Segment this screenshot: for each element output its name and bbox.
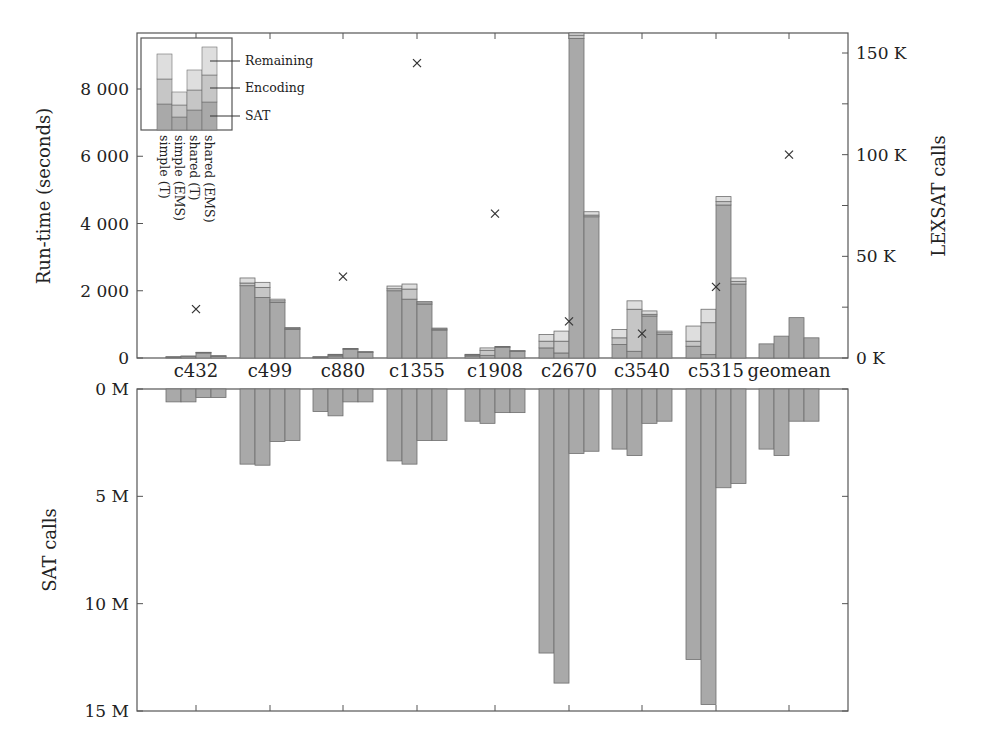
legend-config-label: shared (T): [187, 135, 202, 200]
y-tick-label: 4 000: [80, 214, 129, 234]
bar: [402, 389, 417, 464]
bar: [495, 389, 510, 413]
category-label: c3540: [614, 360, 670, 381]
bar-segment-sat: [240, 286, 255, 358]
bar: [612, 389, 627, 449]
bar-segment-remaining: [642, 311, 657, 314]
bar: [657, 389, 672, 421]
lexsat-marker: [413, 59, 421, 67]
bar: [313, 389, 328, 412]
legend-config-label: shared (EMS): [202, 135, 217, 223]
legend-bar-segment: [157, 104, 172, 130]
category-label: c880: [321, 360, 365, 381]
y-tick-label: 0: [118, 348, 129, 368]
bar-segment-sat: [432, 330, 447, 358]
bar: [285, 389, 300, 441]
y-tick-label: 10 M: [85, 594, 129, 614]
bar-segment-encoding: [480, 350, 495, 355]
legend-label: SAT: [245, 108, 271, 123]
y2-tick-label: 0 K: [856, 348, 885, 368]
legend-label: Encoding: [245, 80, 305, 95]
bar-segment-sat: [759, 344, 774, 358]
bar: [181, 389, 196, 402]
bar-segment-sat: [789, 318, 804, 358]
legend: RemainingEncodingSATsimple (T)simple (EM…: [141, 38, 313, 223]
category-label: c2670: [541, 360, 597, 381]
bar-segment-remaining: [432, 328, 447, 329]
lexsat-marker: [339, 273, 347, 281]
bar-segment-encoding: [701, 323, 716, 355]
bar: [554, 389, 569, 683]
lexsat-marker: [192, 305, 200, 313]
y-tick-label: 2 000: [80, 281, 129, 301]
bar-segment-remaining: [701, 309, 716, 322]
category-label: c1908: [467, 360, 523, 381]
category-label: c499: [248, 360, 292, 381]
bar: [539, 389, 554, 653]
chart-figure: 02 0004 0006 0008 0000 K50 K100 K150 KRu…: [0, 0, 983, 755]
bar: [166, 389, 181, 402]
bar: [804, 389, 819, 421]
bar: [465, 389, 480, 421]
bar: [569, 389, 584, 453]
legend-bar-segment: [172, 92, 187, 105]
bar-segment-sat: [417, 304, 432, 358]
bar-segment-encoding: [569, 35, 584, 38]
bar-segment-encoding: [627, 309, 642, 351]
sat-calls-plot: 0 M5 M10 M15 MSAT calls: [39, 379, 848, 721]
bar-segment-sat: [270, 303, 285, 358]
bar: [731, 389, 746, 483]
y2-axis-title: LEXSAT calls: [928, 135, 949, 257]
bar: [417, 389, 432, 441]
y2-tick-label: 50 K: [856, 246, 896, 266]
bar-segment-encoding: [716, 202, 731, 205]
bar: [480, 389, 495, 423]
y-axis-title: SAT calls: [39, 508, 60, 592]
bar-segment-sat: [480, 355, 495, 358]
bar: [270, 389, 285, 442]
bar-segment-encoding: [686, 341, 701, 346]
bar-segment-encoding: [731, 281, 746, 284]
bar-segment-remaining: [554, 331, 569, 341]
bar: [642, 389, 657, 423]
bar-segment-encoding: [539, 341, 554, 348]
bar-segment-sat: [657, 334, 672, 358]
bar-segment-remaining: [627, 301, 642, 309]
y-tick-label: 8 000: [80, 79, 129, 99]
bar-segment-sat: [387, 291, 402, 358]
y-tick-label: 6 000: [80, 146, 129, 166]
bar-segment-remaining: [270, 299, 285, 301]
bar: [240, 389, 255, 464]
bar: [584, 389, 599, 451]
category-label: c5315: [688, 360, 744, 381]
bar-segment-encoding: [402, 289, 417, 299]
legend-bar-segment: [187, 70, 202, 90]
bar-segment-remaining: [686, 326, 701, 341]
lexsat-marker: [491, 210, 499, 218]
y-tick-label: 0 M: [95, 379, 129, 399]
bar-segment-remaining: [240, 278, 255, 283]
bar-segment-sat: [358, 352, 373, 358]
chart-root: 02 0004 0006 0008 0000 K50 K100 K150 KRu…: [0, 0, 983, 755]
bar-segment-encoding: [240, 283, 255, 286]
bar: [196, 389, 211, 398]
bar-segment-remaining: [387, 286, 402, 289]
bar: [627, 389, 642, 456]
bar-segment-encoding: [612, 338, 627, 345]
legend-label: Remaining: [245, 53, 313, 68]
bar-segment-remaining: [402, 284, 417, 289]
bar: [358, 389, 373, 402]
bar-segment-sat: [343, 349, 358, 358]
y-tick-label: 5 M: [95, 486, 129, 506]
bar: [759, 389, 774, 449]
legend-bar-segment: [157, 54, 172, 79]
bar-segment-sat: [774, 336, 789, 358]
bar-segment-encoding: [255, 287, 270, 297]
bar-segment-sat: [554, 353, 569, 358]
bar-segment-sat: [402, 299, 417, 358]
y-axis-title: Run-time (seconds): [33, 108, 54, 284]
legend-config-label: simple (T): [157, 135, 172, 199]
legend-config-label: simple (EMS): [172, 135, 187, 221]
bar-segment-sat: [196, 353, 211, 358]
legend-bar-segment: [187, 90, 202, 110]
